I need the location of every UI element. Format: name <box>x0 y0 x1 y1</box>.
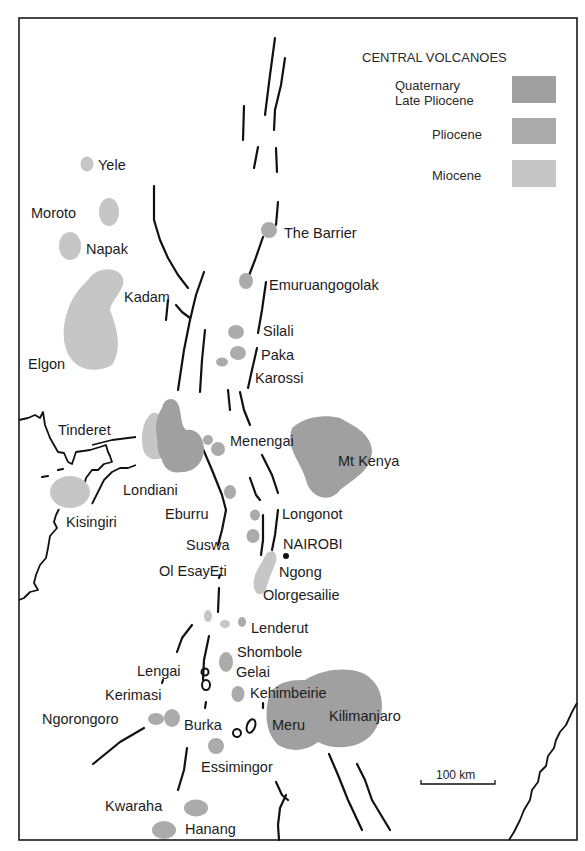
label-moroto: Moroto <box>31 205 76 221</box>
scale-bar-label: 100 km <box>436 768 475 782</box>
label-kerimasi: Kerimasi <box>105 687 161 703</box>
volcano-kehimbeirie <box>232 686 245 702</box>
nairobi-dot <box>283 553 289 559</box>
legend-swatch-miocene <box>512 160 556 187</box>
label-menengai: Menengai <box>230 433 294 449</box>
volcano-map: CENTRAL VOLCANOES Quaternary Late Plioce… <box>0 0 585 851</box>
volcano-elgon <box>64 269 124 370</box>
label-paka: Paka <box>261 347 295 363</box>
label-mt-kenya: Mt Kenya <box>338 453 400 469</box>
crater-burka-small <box>232 728 242 738</box>
label-lengai: Lengai <box>137 663 181 679</box>
label-kadam: Kadam <box>124 289 170 305</box>
volcano-paka <box>230 346 246 360</box>
legend-label-pliocene: Pliocene <box>432 127 482 142</box>
label-kilimanjaro: Kilimanjaro <box>329 708 401 724</box>
crater-lengai-lower <box>202 680 210 690</box>
label-yele: Yele <box>98 157 126 173</box>
scale-bar: 100 km <box>421 768 495 784</box>
volcano-emuruangogolak <box>239 273 253 289</box>
volcano-kwaraha <box>184 800 208 817</box>
legend-swatch-pliocene <box>512 118 556 144</box>
volcano-longonot <box>250 510 260 521</box>
volcano-yele <box>81 157 94 172</box>
volcano-ngorongoro-1 <box>148 713 164 725</box>
label-olorgesailie: Olorgesailie <box>263 587 340 603</box>
label-lenderut: Lenderut <box>251 620 308 636</box>
label-meru: Meru <box>272 717 305 733</box>
crater-burka-large <box>245 718 257 734</box>
label-karossi: Karossi <box>255 370 303 386</box>
shoreline-gulf <box>92 437 136 445</box>
label-emuruangogolak: Emuruangogolak <box>269 277 379 293</box>
legend-label-quaternary: Quaternary <box>395 78 461 93</box>
volcano-small-1 <box>204 610 212 622</box>
label-ol-esayeti: Ol EsayEti <box>159 563 227 579</box>
label-tinderet: Tinderet <box>58 422 111 438</box>
legend-label-late-pliocene: Late Pliocene <box>395 93 474 108</box>
label-hanang: Hanang <box>185 821 236 837</box>
label-longonot: Longonot <box>282 506 342 522</box>
label-silali: Silali <box>263 323 294 339</box>
label-elgon: Elgon <box>28 356 65 372</box>
volcano-silali <box>228 325 244 339</box>
volcano-hanang <box>152 821 176 839</box>
label-shombole: Shombole <box>237 644 302 660</box>
volcano-napak <box>59 232 81 260</box>
volcano-shombole <box>219 652 233 672</box>
east-coastline <box>509 703 577 840</box>
legend: CENTRAL VOLCANOES Quaternary Late Plioce… <box>362 50 556 187</box>
label-kwaraha: Kwaraha <box>105 798 163 814</box>
label-essimingor: Essimingor <box>201 759 273 775</box>
label-kisingiri: Kisingiri <box>66 514 117 530</box>
label-gelai: Gelai <box>236 664 270 680</box>
volcano-londiani-tinderet <box>156 399 204 472</box>
volcano-menengai <box>211 442 225 456</box>
volcano-karossi <box>216 358 228 367</box>
islet-1 <box>42 476 48 477</box>
volcano-lenderut <box>238 617 246 627</box>
label-eburru: Eburru <box>165 506 209 522</box>
label-napak: Napak <box>86 241 129 257</box>
label-suswa: Suswa <box>186 537 230 553</box>
label-nairobi: NAIROBI <box>283 536 343 552</box>
volcano-eburru <box>224 485 236 499</box>
label-the-barrier: The Barrier <box>284 225 357 241</box>
label-ngorongoro: Ngorongoro <box>42 711 119 727</box>
volcano-essimingor <box>208 738 224 754</box>
volcano-moroto <box>99 198 119 226</box>
volcano-the-barrier <box>261 222 277 238</box>
legend-swatch-quaternary <box>512 76 556 103</box>
volcano-suswa <box>247 529 260 543</box>
volcano-tinderet-small <box>203 435 213 445</box>
volcano-ngorongoro-2 <box>164 709 180 727</box>
label-kehimbeirie: Kehimbeirie <box>250 685 327 701</box>
legend-title: CENTRAL VOLCANOES <box>362 50 507 65</box>
volcanoes <box>50 157 382 840</box>
volcano-small-2 <box>220 620 230 628</box>
label-ngong: Ngong <box>279 564 322 580</box>
volcano-kisingiri <box>50 476 90 508</box>
label-londiani: Londiani <box>123 482 178 498</box>
label-burka: Burka <box>184 717 223 733</box>
legend-label-miocene: Miocene <box>432 168 481 183</box>
islet-2 <box>58 469 63 470</box>
